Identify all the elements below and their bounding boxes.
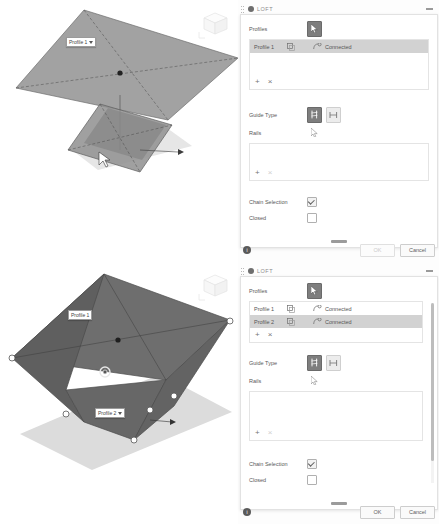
view-cube-widget[interactable] [194,264,236,306]
list-item[interactable]: Profile 1 Connected [250,302,422,315]
help-icon[interactable]: i [243,508,251,516]
add-profile-button[interactable]: + [255,78,260,86]
viewport-top[interactable]: Profile 1 [0,0,238,262]
list-item-empty [250,53,428,64]
screenshot-panel-top: Profile 1 LOFT Profiles [0,0,439,262]
panel-scrollbar[interactable] [431,303,434,483]
select-profiles-button[interactable] [307,21,322,37]
list-item-empty [250,392,422,404]
select-rails-button[interactable] [307,125,322,141]
viewport-label-text: Profile 1 [71,312,89,318]
rails-list[interactable]: + × [249,143,429,181]
profiles-list[interactable]: Profile 1 Connected Profile 2 [249,301,423,343]
profile-name: Profile 2 [254,319,287,325]
collapse-icon[interactable] [426,270,433,272]
cancel-button[interactable]: Cancel [400,244,435,257]
add-rail-button[interactable]: + [255,169,260,177]
guide-type-rails-button[interactable] [307,355,322,371]
select-rails-button[interactable] [307,373,322,389]
chevron-down-icon[interactable] [89,41,93,44]
list-item[interactable]: Profile 1 Connected [250,40,428,53]
chevron-down-icon[interactable] [118,412,122,415]
guide-type-row: Guide Type [249,107,429,122]
profile-name: Profile 1 [254,44,287,50]
rails-icon [311,358,319,367]
closed-row[interactable]: Closed [249,473,429,487]
profile-1-center-point [117,70,122,75]
connection-cell[interactable]: Connected [313,318,352,325]
rails-list-actions: + × [250,166,428,180]
panel-scrollbar-thumb[interactable] [431,303,434,461]
rails-list[interactable]: + × [249,391,423,441]
profiles-label: Profiles [249,288,307,294]
remove-rail-button[interactable]: × [268,169,273,177]
view-cube-widget[interactable] [194,2,236,44]
connection-cell[interactable]: Connected [313,305,352,312]
viewport-label-profile-1[interactable]: Profile 1 [68,310,92,320]
closed-checkbox[interactable] [307,213,317,223]
connection-cell[interactable]: Connected [313,43,352,50]
remove-profile-button[interactable]: × [268,331,273,339]
list-item[interactable]: Profile 2 Connected [250,315,422,328]
centerline-icon [329,111,338,119]
chain-selection-row[interactable]: Chain Selection [249,195,429,209]
dialog-footer: i OK Cancel [240,242,437,258]
remove-rail-button[interactable]: × [268,429,273,437]
profiles-list[interactable]: Profile 1 Connected + [249,39,429,90]
chain-selection-row[interactable]: Chain Selection [249,457,429,471]
add-profile-button[interactable]: + [255,331,260,339]
drag-grip-icon[interactable] [241,268,245,275]
guide-type-rails-button[interactable] [307,107,322,123]
remove-profile-button[interactable]: × [268,78,273,86]
chain-selection-checkbox[interactable] [307,459,317,469]
chain-selection-label: Chain Selection [249,199,307,205]
rails-list-actions: + × [250,426,422,440]
cursor-icon [311,286,318,295]
ok-button[interactable]: OK [360,506,395,519]
guide-type-label: Guide Type [249,112,307,118]
dialog-body: Profiles Profile 1 [240,276,438,510]
select-profiles-button[interactable] [307,283,322,299]
loft-center-point [115,337,120,342]
cancel-button[interactable]: Cancel [400,506,435,519]
list-item-empty [250,144,428,155]
dialog-footer: i OK Cancel [240,504,437,520]
guide-type-centerline-button[interactable] [326,107,341,123]
list-item-empty [250,64,428,75]
vertex-handle [171,393,177,399]
profile-geometry-icon[interactable] [287,43,313,51]
profiles-row: Profiles [249,283,429,298]
viewport-bottom[interactable]: Profile 1 Profile 2 [0,262,238,524]
cursor-icon [311,376,318,385]
loft-dialog-bottom[interactable]: LOFT Profiles Profile 1 [238,262,439,524]
guide-type-centerline-button[interactable] [326,355,341,371]
connection-label: Connected [325,306,352,312]
viewport-label-profile-2[interactable]: Profile 2 [95,408,125,418]
help-icon[interactable]: i [243,246,251,254]
loft-dialog-top[interactable]: LOFT Profiles Profile 1 [238,0,439,262]
dialog-title: LOFT [257,268,273,274]
profiles-list-actions: + × [250,328,422,342]
chain-selection-checkbox[interactable] [307,197,317,207]
profiles-list-actions: + × [250,75,428,89]
connected-icon [313,43,322,50]
dialog-actions: OK Cancel [360,506,435,519]
viewport-label-text: Profile 1 [69,39,87,45]
list-item-empty [250,155,428,166]
dialog-body: Profiles Profile 1 [240,14,438,248]
profile-name: Profile 1 [254,306,287,312]
closed-row[interactable]: Closed [249,211,429,225]
viewport-label-profile-1[interactable]: Profile 1 [66,37,96,47]
ok-button[interactable]: OK [360,244,395,257]
vertex-handle [227,318,233,324]
drag-grip-icon[interactable] [241,6,245,13]
list-item-empty [250,404,422,416]
collapse-icon[interactable] [426,8,433,10]
viewport-label-text: Profile 2 [98,410,116,416]
profile-geometry-icon[interactable] [287,318,313,326]
closed-checkbox[interactable] [307,475,317,485]
profile-geometry-icon[interactable] [287,305,313,313]
rails-row: Rails [249,373,423,388]
add-rail-button[interactable]: + [255,429,260,437]
centerline-icon [329,359,338,367]
